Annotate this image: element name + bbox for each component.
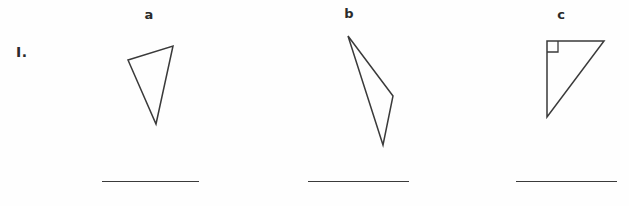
figure-label-b: b bbox=[339, 7, 359, 20]
triangle-c bbox=[547, 41, 604, 117]
triangle-a bbox=[128, 46, 173, 124]
triangle-b bbox=[348, 36, 393, 145]
problem-number: I. bbox=[16, 45, 28, 59]
figures-svg-layer bbox=[0, 0, 629, 206]
figure-label-c: c bbox=[551, 8, 571, 21]
answer-line-c[interactable] bbox=[516, 181, 617, 182]
answer-line-a[interactable] bbox=[102, 181, 199, 182]
right-angle-marker-icon bbox=[547, 41, 558, 52]
answer-line-b[interactable] bbox=[308, 181, 409, 182]
worksheet-canvas: I. a b c bbox=[0, 0, 629, 206]
figure-label-a: a bbox=[139, 8, 159, 21]
